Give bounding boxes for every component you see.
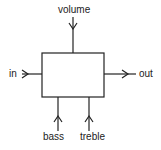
- volume-label: volume: [58, 5, 90, 15]
- out-arrow: [104, 70, 136, 78]
- bass-arrow: [54, 97, 62, 131]
- out-label: out: [139, 69, 153, 79]
- treble-arrow: [85, 97, 93, 131]
- processing-block: [42, 53, 104, 97]
- block-diagram: [0, 0, 161, 150]
- treble-label: treble: [80, 132, 105, 142]
- bass-label: bass: [43, 132, 64, 142]
- in-label: in: [9, 69, 17, 79]
- volume-arrow: [69, 17, 77, 53]
- in-arrow: [22, 70, 42, 78]
